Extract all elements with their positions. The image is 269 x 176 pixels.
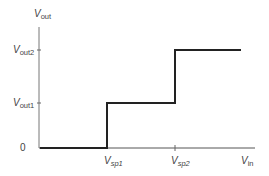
x-tick-vsp1-main: V [104, 155, 111, 166]
x-tick-vsp2-sub: sp2 [178, 159, 190, 168]
y-tick-vout1-sub: out1 [20, 101, 35, 110]
x-tick-label-vsp2: Vsp2 [171, 156, 190, 168]
x-tick-label-vsp1: Vsp1 [104, 156, 123, 168]
x-axis-label-main: V [241, 155, 248, 166]
y-tick-label-zero: 0 [20, 143, 26, 153]
y-axis-label-main: V [34, 8, 41, 19]
step-curve [40, 50, 241, 148]
x-axis-label: Vin [241, 156, 254, 168]
x-tick-vsp1-sub: sp1 [111, 159, 123, 168]
y-axis-label-sub: out [41, 12, 51, 21]
x-tick-vsp2-main: V [171, 155, 178, 166]
y-tick-label-vout2: Vout2 [13, 45, 34, 57]
x-axis-label-sub: in [248, 159, 254, 168]
transfer-curve-plot [0, 0, 269, 176]
y-tick-label-vout1: Vout1 [13, 98, 34, 110]
y-tick-vout1-main: V [13, 97, 20, 108]
y-tick-vout2-main: V [13, 44, 20, 55]
y-axis-label: Vout [34, 9, 51, 21]
y-tick-vout2-sub: out2 [20, 48, 35, 57]
